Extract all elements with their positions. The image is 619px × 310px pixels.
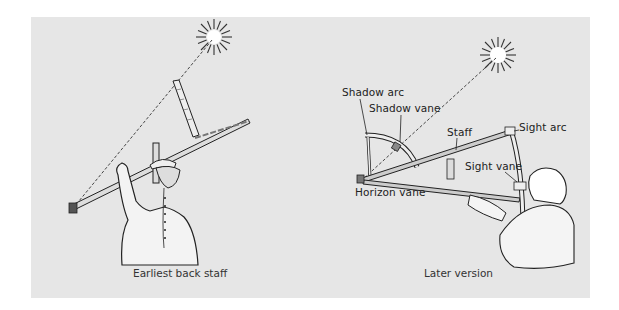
caption-earliest: Earliest back staff bbox=[133, 267, 227, 279]
label-pointers bbox=[0, 0, 619, 310]
caption-later: Later version bbox=[424, 267, 493, 279]
